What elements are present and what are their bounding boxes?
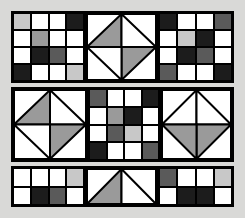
quilt-cell xyxy=(142,125,160,143)
bottom-left-checker xyxy=(13,168,84,205)
quilt-cell xyxy=(177,64,195,81)
quilt-cell xyxy=(196,168,214,187)
quilt-cell xyxy=(177,13,195,30)
quilt-cell xyxy=(31,47,49,64)
quilt-cell xyxy=(159,187,177,206)
middle-left-diamond xyxy=(13,89,87,160)
quilt-cell xyxy=(159,168,177,187)
quilt-cell xyxy=(124,107,142,125)
quilt-cell xyxy=(177,187,195,206)
quilt-cell xyxy=(177,30,195,47)
quilt-cell xyxy=(13,13,31,30)
diamond-svg xyxy=(86,13,157,81)
quilt-cell xyxy=(13,187,31,206)
quilt-cell xyxy=(49,13,67,30)
quilt-cell xyxy=(107,89,125,107)
quilt-diagram xyxy=(0,0,245,218)
quilt-cell xyxy=(159,13,177,30)
quilt-cell xyxy=(177,168,195,187)
quilt-cell xyxy=(49,168,67,187)
top-right-checker xyxy=(159,13,232,81)
quilt-cell xyxy=(177,47,195,64)
quilt-cell xyxy=(159,30,177,47)
quilt-cell xyxy=(13,30,31,47)
quilt-cell xyxy=(214,187,232,206)
middle-center-checker xyxy=(89,89,159,160)
diamond-svg xyxy=(13,89,87,160)
quilt-cell xyxy=(124,142,142,160)
quilt-cell xyxy=(13,64,31,81)
quilt-cell xyxy=(49,187,67,206)
quilt-cell xyxy=(31,13,49,30)
quilt-cell xyxy=(49,47,67,64)
quilt-cell xyxy=(107,125,125,143)
quilt-cell xyxy=(89,142,107,160)
quilt-cell xyxy=(49,30,67,47)
middle-right-diamond xyxy=(161,89,232,160)
top-left-checker xyxy=(13,13,84,81)
quilt-cell xyxy=(142,89,160,107)
quilt-cell xyxy=(107,107,125,125)
quilt-cell xyxy=(66,30,84,47)
quilt-cell xyxy=(214,30,232,47)
quilt-cell xyxy=(196,30,214,47)
quilt-cell xyxy=(214,168,232,187)
quilt-cell xyxy=(196,47,214,64)
quilt-cell xyxy=(124,89,142,107)
quilt-cell xyxy=(89,89,107,107)
quilt-cell xyxy=(214,64,232,81)
peak-triangles-svg xyxy=(86,168,157,205)
quilt-cell xyxy=(159,47,177,64)
quilt-cell xyxy=(66,168,84,187)
quilt-cell xyxy=(66,47,84,64)
quilt-cell xyxy=(66,13,84,30)
quilt-cell xyxy=(124,125,142,143)
quilt-cell xyxy=(13,168,31,187)
quilt-cell xyxy=(89,107,107,125)
bottom-right-checker xyxy=(159,168,232,205)
top-center-diamond xyxy=(86,13,157,81)
quilt-cell xyxy=(142,142,160,160)
quilt-cell xyxy=(31,64,49,81)
quilt-cell xyxy=(196,13,214,30)
quilt-cell xyxy=(49,64,67,81)
quilt-cell xyxy=(196,64,214,81)
middle-band xyxy=(11,87,234,162)
quilt-cell xyxy=(159,64,177,81)
quilt-cell xyxy=(31,30,49,47)
quilt-cell xyxy=(89,125,107,143)
quilt-cell xyxy=(66,187,84,206)
quilt-cell xyxy=(214,13,232,30)
diamond-svg xyxy=(161,89,232,160)
quilt-cell xyxy=(31,168,49,187)
quilt-cell xyxy=(142,107,160,125)
bottom-center-peak xyxy=(86,168,157,205)
quilt-cell xyxy=(214,47,232,64)
bottom-band xyxy=(11,166,234,207)
top-band xyxy=(11,11,234,83)
quilt-cell xyxy=(13,47,31,64)
quilt-cell xyxy=(66,64,84,81)
quilt-cell xyxy=(31,187,49,206)
quilt-cell xyxy=(196,187,214,206)
quilt-cell xyxy=(107,142,125,160)
